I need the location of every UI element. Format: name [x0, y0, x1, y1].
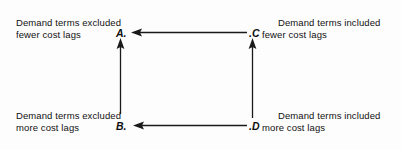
node-label-b: Demand terms excluded more cost lags: [16, 110, 121, 134]
node-label-b-line1: Demand terms excluded: [16, 110, 121, 122]
arrow-c-to-a: [131, 29, 247, 37]
node-marker-b: B.: [116, 120, 127, 132]
node-label-d: Demand terms included more cost lags: [262, 110, 380, 134]
node-label-c: Demand terms included fewer cost lags: [262, 17, 380, 41]
node-marker-a: A.: [116, 27, 127, 39]
diagram-canvas: Demand terms excluded fewer cost lags A.…: [0, 0, 401, 150]
node-label-d-line2: more cost lags: [262, 122, 380, 134]
node-marker-d: .D: [249, 120, 260, 132]
arrow-d-to-c: [249, 38, 257, 118]
node-label-a-line1: Demand terms excluded: [16, 17, 121, 29]
node-label-a-line2: fewer cost lags: [16, 29, 121, 41]
node-label-c-line2: fewer cost lags: [262, 29, 380, 41]
node-marker-c: .C: [249, 27, 260, 39]
node-label-a: Demand terms excluded fewer cost lags: [16, 17, 121, 41]
node-label-c-line1: Demand terms included: [262, 17, 380, 29]
node-label-d-line1: Demand terms included: [262, 110, 380, 122]
arrow-d-to-b: [133, 122, 247, 130]
node-label-b-line2: more cost lags: [16, 122, 121, 134]
arrow-b-to-a: [117, 38, 125, 114]
